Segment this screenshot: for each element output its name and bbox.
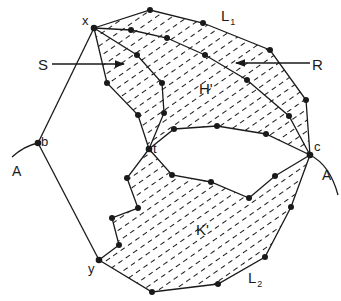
diagram-svg — [0, 0, 341, 301]
label-b: b — [41, 135, 48, 148]
label-k-prime: K' — [196, 222, 209, 237]
label-a-right: A — [322, 168, 331, 182]
label-a-left: A — [12, 164, 21, 178]
label-c: c — [314, 140, 321, 153]
label-l2: L2 — [248, 270, 262, 285]
label-r: R — [312, 57, 323, 72]
label-l1: L1 — [221, 8, 235, 23]
label-s: S — [38, 57, 48, 72]
label-l1-main: L — [221, 7, 229, 24]
label-l2-main: L — [248, 269, 256, 286]
label-x: x — [82, 14, 89, 27]
curve-a-left — [12, 143, 38, 157]
edge-x-b — [38, 28, 94, 143]
edge-b-y — [38, 143, 99, 260]
label-l2-sub: 2 — [257, 279, 262, 289]
label-y: y — [88, 262, 95, 275]
label-t: t — [153, 142, 157, 155]
label-h-prime: H' — [199, 81, 213, 96]
diagram-canvas: x y b t c A A S R H' K' L1 L2 — [0, 0, 341, 301]
label-l1-sub: 1 — [230, 17, 235, 27]
